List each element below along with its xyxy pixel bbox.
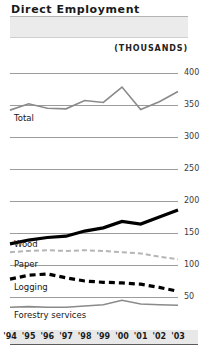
x-tick-label: '94 [1,332,19,341]
y-tick-label: 400 [184,68,199,77]
x-tick-label: '03 [169,332,187,341]
x-tick-label: '98 [76,332,94,341]
series-label-paper: Paper [14,259,38,269]
x-tick-label: '01 [132,332,150,341]
y-tick-label: 250 [184,164,199,173]
x-tick-label: '95 [20,332,38,341]
series-line-forestry-services [10,300,178,307]
series-line-total [10,87,178,110]
series-group [10,87,178,307]
series-label-total: Total [14,113,34,123]
x-tick-label: '02 [150,332,168,341]
y-tick-label: 200 [184,196,199,205]
y-tick-label: 100 [184,260,199,269]
x-tick-label: '99 [94,332,112,341]
chart-plot-area [0,0,213,354]
y-tick-label: 350 [184,100,199,109]
series-label-logging: Logging [14,282,48,292]
x-tick-label: '96 [38,332,56,341]
series-line-paper [10,250,178,259]
x-tick-label: '00 [113,332,131,341]
y-tick-label: 50 [184,292,194,301]
x-tick-label: '97 [57,332,75,341]
y-tick-label: 300 [184,132,199,141]
y-tick-label: 150 [184,228,199,237]
series-label-forestry-services: Forestry services [14,310,86,320]
chart-container: Direct Employment (THOUSANDS) 4003503002… [0,0,213,354]
series-label-wood: Wood [14,239,38,249]
